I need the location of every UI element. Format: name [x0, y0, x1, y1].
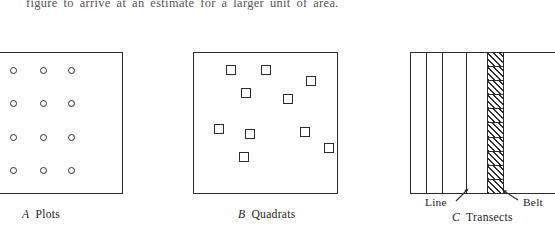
quadrat-square — [239, 152, 249, 162]
panel-a-caption: APlots — [22, 208, 60, 221]
plot-circle — [68, 100, 75, 107]
transect-line — [466, 52, 467, 194]
belt-segment — [488, 138, 503, 152]
belt-segment — [488, 53, 503, 67]
quadrat-square — [324, 143, 334, 153]
panel-c-caption-label: Transects — [466, 211, 513, 224]
panel-b-caption: BQuadrats — [238, 208, 296, 221]
plot-circle — [40, 134, 47, 141]
plot-circle — [40, 167, 47, 174]
running-body-text: figure to arrive at an estimate for a la… — [26, 0, 526, 11]
panel-c-caption-letter: C — [452, 211, 466, 224]
plot-circle — [40, 67, 47, 74]
transect-line — [426, 52, 427, 194]
belt-segment — [488, 123, 503, 137]
panel-a-caption-label: Plots — [35, 208, 60, 221]
panel-a-caption-letter: A — [22, 208, 35, 221]
panel-c-caption: CTransects — [452, 211, 513, 224]
quadrat-square — [241, 88, 251, 98]
panel-a-boundary — [0, 52, 123, 194]
plot-circle — [10, 67, 17, 74]
belt-segment — [488, 152, 503, 166]
belt-segment — [488, 67, 503, 81]
panel-b-caption-letter: B — [238, 208, 251, 221]
belt-transect — [487, 52, 504, 194]
transect-line — [442, 52, 443, 194]
belt-annotation-label: Belt — [523, 196, 543, 208]
plot-circle — [68, 167, 75, 174]
quadrat-square — [283, 94, 293, 104]
quadrat-square — [261, 65, 271, 75]
belt-segment — [488, 109, 503, 123]
belt-segment — [488, 166, 503, 180]
plot-circle — [10, 167, 17, 174]
plot-circle — [10, 100, 17, 107]
belt-segment — [488, 81, 503, 95]
panel-c-boundary — [410, 52, 555, 194]
plot-circle — [68, 67, 75, 74]
plot-circle — [10, 134, 17, 141]
quadrat-square — [226, 65, 236, 75]
line-leader-arrow-icon — [455, 188, 471, 204]
panel-b-caption-label: Quadrats — [251, 208, 295, 221]
quadrat-square — [245, 129, 255, 139]
belt-leader-arrow-icon — [500, 188, 520, 204]
quadrat-square — [306, 76, 316, 86]
plot-circle — [68, 134, 75, 141]
line-annotation-label: Line — [425, 196, 447, 208]
belt-segment — [488, 95, 503, 109]
quadrat-square — [214, 124, 224, 134]
quadrat-square — [300, 127, 310, 137]
plot-circle — [40, 100, 47, 107]
